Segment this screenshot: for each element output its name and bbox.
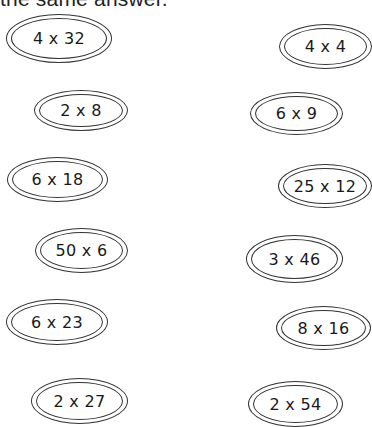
expression-label: 3 x 46 <box>269 250 321 269</box>
expression-label: 6 x 18 <box>32 170 84 189</box>
expression-oval-inner-ring: 2 x 54 <box>253 385 338 423</box>
expression-label: 2 x 8 <box>60 101 102 120</box>
expression-oval-inner-ring: 50 x 6 <box>40 232 123 269</box>
expression-oval-inner-ring: 4 x 4 <box>284 28 367 65</box>
expression-label: 6 x 9 <box>276 104 318 123</box>
expression-oval[interactable]: 4 x 4 <box>279 24 372 69</box>
instructions-text: the same answer. <box>0 0 168 9</box>
expression-label: 4 x 4 <box>305 37 347 56</box>
expression-oval[interactable]: 8 x 16 <box>276 306 371 350</box>
expression-oval-inner-ring: 6 x 23 <box>11 303 103 341</box>
expression-oval[interactable]: 50 x 6 <box>35 228 128 273</box>
expression-oval[interactable]: 6 x 9 <box>250 92 343 135</box>
expression-label: 6 x 23 <box>31 313 83 332</box>
expression-oval[interactable]: 6 x 18 <box>7 157 108 202</box>
expression-oval[interactable]: 2 x 54 <box>248 381 343 427</box>
expression-oval[interactable]: 2 x 27 <box>31 378 128 424</box>
expression-oval[interactable]: 2 x 8 <box>34 90 128 131</box>
expression-oval-inner-ring: 6 x 9 <box>255 96 338 131</box>
expression-label: 2 x 54 <box>270 395 322 414</box>
expression-oval-inner-ring: 6 x 18 <box>12 161 103 198</box>
expression-label: 25 x 12 <box>294 177 356 196</box>
expression-oval-inner-ring: 4 x 32 <box>11 18 107 59</box>
expression-oval-inner-ring: 25 x 12 <box>283 168 367 204</box>
expression-oval[interactable]: 6 x 23 <box>6 299 108 345</box>
expression-label: 8 x 16 <box>298 319 350 338</box>
expression-label: 2 x 27 <box>54 392 106 411</box>
expression-oval-inner-ring: 8 x 16 <box>281 310 366 346</box>
expression-label: 4 x 32 <box>33 29 85 48</box>
expression-oval-inner-ring: 3 x 46 <box>251 239 338 279</box>
expression-label: 50 x 6 <box>56 241 108 260</box>
expression-oval-inner-ring: 2 x 8 <box>39 94 123 127</box>
expression-oval-inner-ring: 2 x 27 <box>36 382 123 420</box>
expression-oval[interactable]: 4 x 32 <box>6 14 112 63</box>
expression-oval[interactable]: 3 x 46 <box>246 235 343 283</box>
expression-oval[interactable]: 25 x 12 <box>278 164 372 208</box>
